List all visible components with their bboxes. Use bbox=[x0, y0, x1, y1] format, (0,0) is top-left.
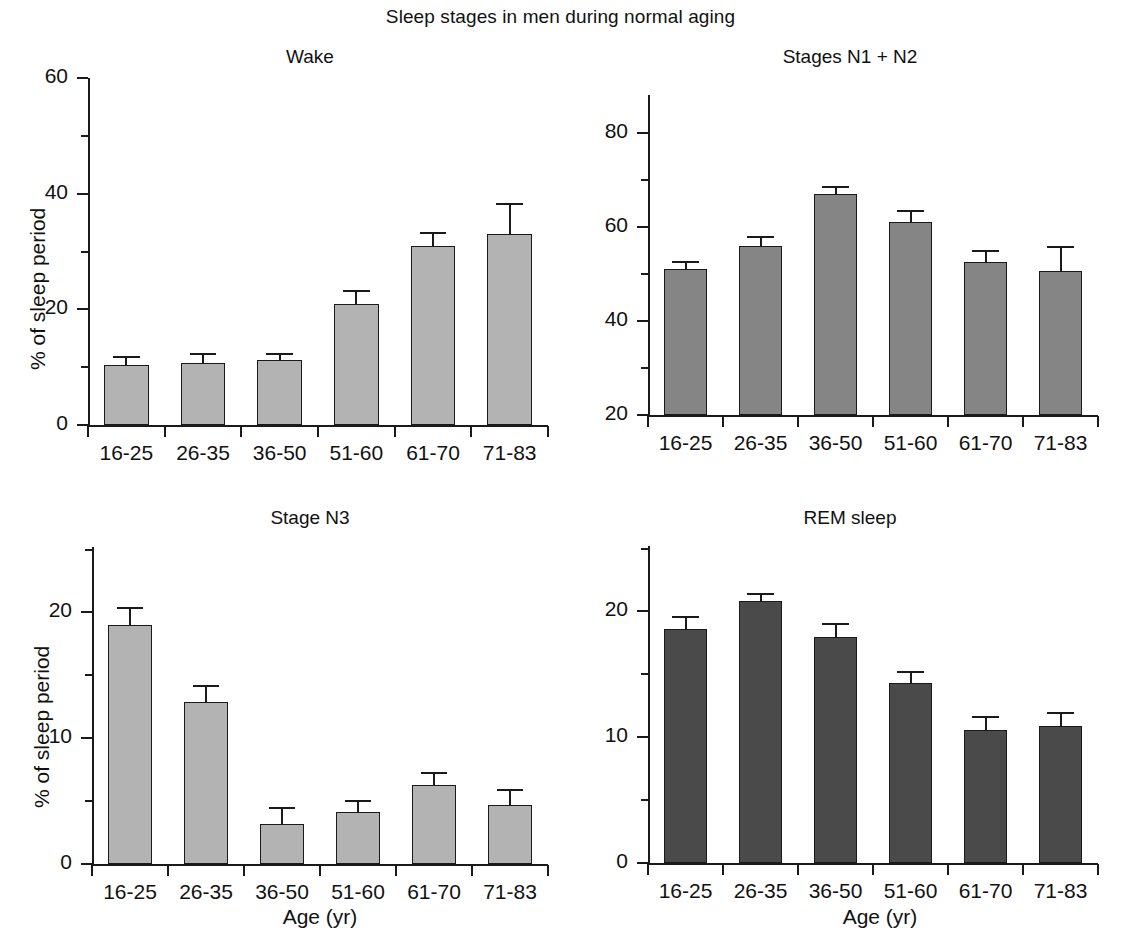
error-bar-cap bbox=[672, 616, 698, 618]
figure-root: Sleep stages in men during normal aging … bbox=[0, 0, 1121, 938]
bar bbox=[964, 730, 1008, 863]
y-axis-minor-tick bbox=[641, 673, 648, 675]
error-bar-cap bbox=[1047, 712, 1073, 714]
x-axis-tick-label: 61-70 bbox=[948, 879, 1023, 903]
error-bar-cap bbox=[822, 623, 848, 625]
error-bar-cap bbox=[972, 716, 998, 718]
error-bar-stem bbox=[985, 716, 987, 730]
y-axis-tick-label: 20 bbox=[538, 597, 628, 621]
error-bar-stem bbox=[1060, 712, 1062, 726]
bar bbox=[664, 629, 708, 863]
panel-title: REM sleep bbox=[600, 507, 1100, 529]
x-axis-tick bbox=[1097, 864, 1099, 875]
x-axis-tick-label: 51-60 bbox=[873, 879, 948, 903]
panel-bottom-right: REM sleep0102016-2526-3536-5051-6061-707… bbox=[0, 0, 1121, 938]
y-axis-minor-tick bbox=[641, 548, 648, 550]
x-axis-tick bbox=[722, 864, 724, 875]
bar bbox=[1039, 726, 1083, 863]
error-bar-cap bbox=[897, 671, 923, 673]
y-axis-tick bbox=[637, 736, 648, 738]
y-axis-minor-tick bbox=[641, 799, 648, 801]
x-axis-tick bbox=[647, 864, 649, 875]
x-axis-tick bbox=[872, 864, 874, 875]
error-bar-stem bbox=[835, 623, 837, 637]
x-axis-tick-label: 16-25 bbox=[648, 879, 723, 903]
y-axis-line bbox=[648, 546, 650, 865]
bar bbox=[739, 601, 783, 863]
bar bbox=[814, 637, 858, 863]
y-axis-tick bbox=[637, 610, 648, 612]
error-bar-cap bbox=[747, 593, 773, 595]
y-axis-tick-label: 0 bbox=[538, 849, 628, 873]
x-axis-tick-label: 71-83 bbox=[1023, 879, 1098, 903]
y-axis-tick-label: 10 bbox=[538, 723, 628, 747]
x-axis-tick bbox=[947, 864, 949, 875]
x-axis-tick-label: 36-50 bbox=[798, 879, 873, 903]
x-axis-label: Age (yr) bbox=[760, 905, 1000, 929]
x-axis-tick-label: 26-35 bbox=[723, 879, 798, 903]
x-axis-tick bbox=[797, 864, 799, 875]
bar bbox=[889, 683, 933, 863]
x-axis-tick bbox=[1022, 864, 1024, 875]
